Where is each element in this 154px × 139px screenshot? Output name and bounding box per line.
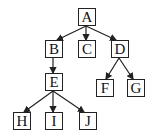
node-d: D — [111, 40, 129, 58]
edge-e-h — [24, 91, 53, 112]
edge-e-j — [53, 91, 84, 112]
node-f: F — [96, 79, 114, 97]
node-e: E — [45, 73, 63, 91]
node-b: B — [45, 40, 63, 58]
node-h: H — [13, 112, 31, 130]
node-g: G — [127, 79, 145, 97]
node-c: C — [78, 40, 96, 58]
edge-a-d — [86, 26, 116, 40]
node-j: J — [79, 112, 97, 130]
tree-diagram: A B C D E F G H I J — [0, 0, 154, 139]
node-i: I — [45, 112, 63, 130]
edge-a-b — [57, 26, 86, 40]
edge-d-f — [106, 58, 119, 79]
edge-d-g — [119, 58, 133, 79]
node-a: A — [78, 8, 96, 26]
